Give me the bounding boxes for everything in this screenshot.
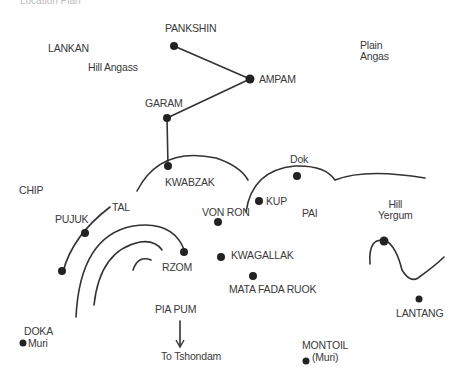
label-lantang: LANTANG bbox=[396, 307, 443, 319]
road-pankshin-ampam bbox=[174, 46, 250, 79]
label-chip: CHIP bbox=[19, 184, 43, 196]
label-tal: TAL bbox=[112, 201, 130, 213]
dot-ampam bbox=[246, 75, 255, 84]
label-montoil: MONTOIL bbox=[302, 339, 348, 351]
location-map: Location Plan bbox=[0, 0, 466, 388]
label-to-tshondam: To Tshondam bbox=[161, 350, 221, 362]
label-angas: Angas bbox=[360, 51, 389, 62]
dot-montoil bbox=[303, 358, 310, 365]
dot-pujuk bbox=[81, 229, 89, 237]
label-ampam: AMPAM bbox=[259, 73, 296, 85]
label-doka: DOKA bbox=[24, 325, 53, 337]
map-lines bbox=[0, 0, 466, 388]
arc-pujuk-inner bbox=[133, 259, 151, 270]
label-garam: GARAM bbox=[145, 97, 183, 109]
dot-kwabzak bbox=[164, 162, 172, 170]
hill-wave-yergum bbox=[370, 240, 444, 279]
label-rzom: RZOM bbox=[162, 261, 192, 273]
label-hill-yergum: Hill Yergum bbox=[378, 199, 413, 221]
arc-pujuk-third bbox=[94, 242, 162, 305]
dot-rzom-arc bbox=[180, 248, 188, 256]
label-hill-angass: Hill Angass bbox=[88, 61, 138, 73]
label-pai: PAI bbox=[302, 207, 318, 219]
label-plain-angas: Plain Angas bbox=[360, 40, 389, 62]
dot-kwagallak bbox=[217, 253, 225, 261]
label-pankshin: PANKSHIN bbox=[165, 22, 216, 34]
label-mata-fada-ruok: MATA FADA RUOK bbox=[229, 283, 316, 295]
dot-pankshin bbox=[170, 42, 178, 50]
label-kwagallak: KWAGALLAK bbox=[231, 249, 294, 261]
dot-kup bbox=[255, 197, 263, 205]
label-kwabzak: KWABZAK bbox=[165, 176, 215, 188]
dot-lower-pujuk-arc bbox=[58, 267, 66, 275]
label-montoil-muri: (Muri) bbox=[312, 351, 338, 363]
label-dok: Dok bbox=[290, 153, 308, 165]
dot-yergum bbox=[380, 237, 389, 246]
dot-doka bbox=[20, 340, 27, 347]
label-lankan: LANKAN bbox=[48, 42, 89, 54]
label-doka-muri: Muri bbox=[28, 337, 48, 349]
road-garam-kwabzak bbox=[167, 118, 168, 166]
label-kup: KUP bbox=[266, 195, 287, 207]
dot-lantang bbox=[416, 296, 423, 303]
dot-garam bbox=[163, 114, 171, 122]
dot-von-ron bbox=[214, 218, 222, 226]
dot-mata-fada-ruok bbox=[249, 272, 257, 280]
label-pia-pum: PIA PUM bbox=[155, 303, 196, 315]
dot-dok bbox=[293, 172, 301, 180]
label-pujuk: PUJUK bbox=[55, 213, 88, 225]
label-von-ron: VON RON bbox=[202, 206, 250, 218]
label-yergum: Yergum bbox=[378, 210, 413, 221]
